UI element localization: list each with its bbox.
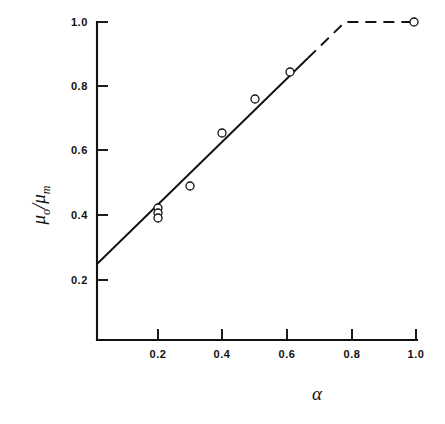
data-point bbox=[410, 18, 418, 26]
data-point bbox=[218, 129, 226, 137]
y-tick-label-0.2: 0.2 bbox=[71, 274, 88, 286]
chart-figure: 1.0 0.8 0.6 0.4 0.2 0.2 0.4 0.6 0.8 1.0 bbox=[0, 0, 445, 424]
data-point bbox=[186, 182, 194, 190]
plot-background bbox=[0, 0, 445, 424]
y-tick-label-0.8: 0.8 bbox=[71, 80, 88, 92]
y-axis-mu-denominator: μ bbox=[28, 194, 49, 205]
data-point bbox=[286, 68, 294, 76]
x-tick-label-0.6: 0.6 bbox=[278, 348, 295, 360]
y-tick-label-0.6: 0.6 bbox=[71, 144, 88, 156]
x-tick-label-0.2: 0.2 bbox=[149, 348, 166, 360]
data-point bbox=[154, 214, 162, 222]
y-axis-sub-denominator: m bbox=[39, 185, 53, 194]
data-point bbox=[251, 95, 259, 103]
x-tick-label-1.0: 1.0 bbox=[407, 348, 424, 360]
y-tick-label-1.0: 1.0 bbox=[71, 16, 88, 28]
x-tick-label-0.4: 0.4 bbox=[213, 348, 230, 360]
y-axis-mu-numerator: μ bbox=[28, 215, 49, 226]
x-tick-label-0.8: 0.8 bbox=[343, 348, 360, 360]
scatter-plot-svg: 1.0 0.8 0.6 0.4 0.2 0.2 0.4 0.6 0.8 1.0 bbox=[0, 0, 445, 424]
x-axis-title: α bbox=[312, 383, 323, 404]
y-tick-label-0.4: 0.4 bbox=[71, 209, 88, 221]
